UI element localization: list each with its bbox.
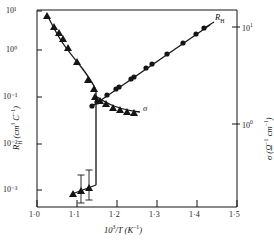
marker-group-sigma [91,93,138,116]
y-left-tick-label-1: 10⁰ [6,45,17,54]
y-left-tick-label-0: 10¹ [6,6,16,15]
x-tick-label-1: 1·1 [69,210,80,219]
x-tick-label-3: 1·3 [149,210,160,219]
curve-label-sigma: σ [143,103,147,113]
hall-label-leader [206,22,214,27]
y-right-tick-label-1: 100 [242,119,253,130]
y-right-axis-title: σ (Ω−1 cm−1) [263,117,274,160]
x-axis-ticks [37,200,237,207]
x-tick-label-5: 1·5 [229,210,240,219]
plot-canvas [0,0,274,244]
y-right-ticks [232,27,240,124]
y-left-tick-label-2: 10⁻¹ [3,92,17,101]
x-axis-title: 103/T (K−1) [104,224,142,235]
x-tick-label-4: 1·4 [189,210,200,219]
figure-root: 10¹ 10⁰ 10⁻¹ 10⁻² 10⁻³ 101 100 1·0 1·1 1… [0,0,274,244]
x-tick-label-0: 1·0 [29,210,40,219]
axis-frame [37,10,237,207]
marker-group-rising-circles [89,25,206,108]
y-left-ticks [37,11,42,190]
x-tick-label-2: 1·2 [109,210,120,219]
y-left-tick-label-4: 10⁻³ [3,185,17,194]
y-left-axis-title: RH (cm3 C−1) [10,106,23,150]
curve-label-hall: RH [215,12,224,24]
y-right-tick-label-0: 101 [242,22,253,33]
